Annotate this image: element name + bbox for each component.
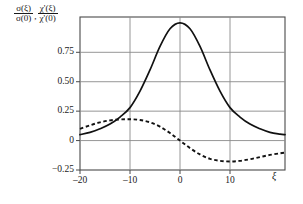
x-tick-label: 0 xyxy=(160,175,200,185)
x-tick-label: 10 xyxy=(210,175,250,185)
x-tick-label: –10 xyxy=(110,175,150,185)
axis-tick-marks xyxy=(76,52,230,174)
chart-figure: σ(ξ) σ(0) , χ'(ξ) χ'(0) −0.2500.250.500.… xyxy=(0,0,303,204)
plot-frame xyxy=(80,17,285,170)
y-tick-label: 0.75 xyxy=(34,46,74,56)
series-sigma-curve xyxy=(80,23,285,135)
y-tick-label: 0 xyxy=(34,135,74,145)
horizontal-gridlines xyxy=(80,52,285,140)
vertical-gridlines xyxy=(130,17,230,170)
y-tick-label: −0.25 xyxy=(34,164,74,174)
y-tick-label: 0.50 xyxy=(34,76,74,86)
y-tick-label: 0.25 xyxy=(34,105,74,115)
x-tick-label: –20 xyxy=(60,175,100,185)
x-axis-name: ξ xyxy=(272,170,276,181)
